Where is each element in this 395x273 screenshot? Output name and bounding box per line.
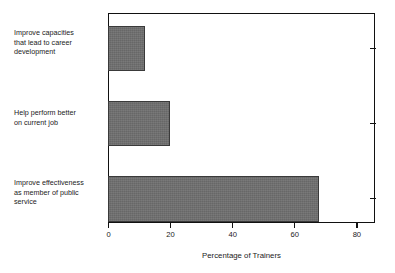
- x-axis-tick-1: [170, 223, 171, 228]
- right-axis-tick-0: [370, 48, 376, 49]
- x-axis-title: Percentage of Trainers: [108, 250, 375, 261]
- x-axis-tick-2: [232, 223, 233, 228]
- x-axis-tick-0: [108, 223, 109, 228]
- x-axis-tick-3: [294, 223, 295, 228]
- category-label-2: Improve effectiveness as member of publi…: [14, 178, 110, 207]
- x-axis-tick-4: [356, 223, 357, 228]
- bar-category-0: [108, 26, 145, 71]
- bar-category-1: [108, 101, 170, 146]
- x-axis-tick-label-2: 40: [220, 230, 246, 240]
- bars-layer: [108, 13, 375, 223]
- bar-category-2: [108, 176, 319, 222]
- right-axis-tick-1: [370, 123, 376, 124]
- x-axis-tick-label-1: 20: [158, 230, 184, 240]
- category-label-0: Improve capacities that lead to career d…: [14, 28, 110, 57]
- x-axis-tick-label-4: 80: [344, 230, 370, 240]
- x-axis-tick-label-0: 0: [96, 230, 122, 240]
- bar-chart: Improve capacities that lead to career d…: [0, 0, 395, 273]
- category-label-1: Help perform better on current job: [14, 108, 110, 127]
- x-axis-tick-label-3: 60: [282, 230, 308, 240]
- right-axis-tick-2: [370, 198, 376, 199]
